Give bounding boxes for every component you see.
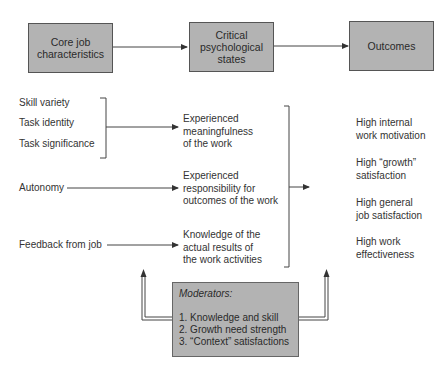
box-label: psychological (200, 41, 263, 53)
characteristic-task-identity: Task identity (19, 117, 74, 130)
characteristic-task-significance: Task significance (19, 138, 95, 151)
moderators-box: Moderators: 1. Knowledge and skill 2. Gr… (172, 282, 299, 357)
outcome-growth-satisfaction: High “growth”satisfaction (356, 157, 416, 182)
state-responsibility: Experiencedresponsibility foroutcomes of… (183, 170, 278, 208)
critical-states-box: Criticalpsychologicalstates (189, 22, 274, 72)
state-knowledge-of-results: Knowledge of theactual results ofthe wor… (183, 229, 262, 267)
box-label: Core job (37, 36, 104, 48)
group-bracket (100, 98, 106, 158)
box-label: Critical (200, 29, 263, 41)
box-label: Outcomes (368, 40, 416, 52)
outcomes-box: Outcomes (349, 21, 434, 71)
characteristic-autonomy: Autonomy (19, 182, 64, 195)
moderator-arrow-right (324, 269, 330, 277)
moderator-item: 3. “Context” satisfactions (179, 336, 292, 348)
outcome-job-satisfaction: High generaljob satisfaction (356, 197, 422, 222)
state-meaningfulness: Experiencedmeaningfulnessof the work (183, 113, 253, 151)
states-bracket (284, 106, 289, 267)
characteristic-feedback: Feedback from job (19, 239, 102, 252)
box-label: characteristics (37, 48, 104, 60)
box-label: states (200, 53, 263, 65)
moderators-title: Moderators: (179, 288, 292, 300)
outcome-work-effectiveness: High workeffectiveness (356, 236, 414, 261)
core-job-characteristics-box: Core jobcharacteristics (28, 23, 113, 73)
outcome-internal-motivation: High internalwork motivation (356, 117, 425, 142)
moderator-item: 2. Growth need strength (179, 324, 292, 336)
moderator-item: 1. Knowledge and skill (179, 312, 292, 324)
characteristic-skill-variety: Skill variety (19, 97, 70, 110)
moderator-arrow-left (141, 269, 147, 277)
